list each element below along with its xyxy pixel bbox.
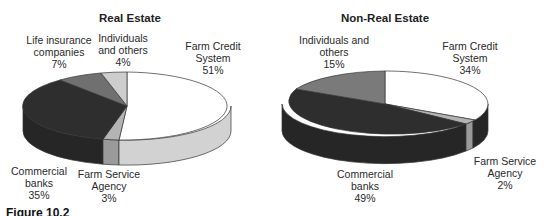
slice-side-farm-service-agency [466, 121, 473, 151]
label-percent: 35% [4, 189, 74, 201]
label-farm-service-agency: Farm Service Agency 3% [72, 168, 146, 204]
label-name: Farm Credit [435, 40, 505, 52]
label-name: System [435, 52, 505, 64]
label-farm-service-agency: Farm Service Agency 2% [468, 155, 542, 191]
label-individuals: Individuals and others 15% [292, 34, 376, 70]
label-name: Commercial [330, 168, 400, 180]
label-percent: 51% [178, 64, 248, 76]
chart-title-non-real-estate: Non-Real Estate [330, 12, 440, 24]
label-name: Farm Service [468, 155, 542, 167]
label-percent: 4% [91, 56, 155, 68]
label-name: Farm Credit [178, 40, 248, 52]
label-name: Agency [72, 180, 146, 192]
label-name: System [178, 52, 248, 64]
non-real-estate-pie [282, 71, 488, 164]
figure-caption: Figure 10.2 [6, 206, 69, 216]
slice-side-farm-service-agency [103, 139, 119, 165]
real-estate-pie [23, 72, 231, 165]
label-percent: 34% [435, 64, 505, 76]
label-name: Individuals [91, 32, 155, 44]
label-name: Agency [468, 167, 542, 179]
label-name: Commercial [4, 165, 74, 177]
label-percent: 3% [72, 192, 146, 204]
label-name: and others [91, 44, 155, 56]
label-farm-credit-system: Farm Credit System 51% [178, 40, 248, 76]
label-percent: 2% [468, 179, 542, 191]
label-name: others [292, 46, 376, 58]
label-farm-credit-system: Farm Credit System 34% [435, 40, 505, 76]
label-name: banks [330, 180, 400, 192]
label-percent: 49% [330, 192, 400, 204]
label-percent: 15% [292, 58, 376, 70]
label-individuals: Individuals and others 4% [91, 32, 155, 68]
label-name: Individuals and [292, 34, 376, 46]
label-commercial-banks: Commercial banks 35% [4, 165, 74, 201]
chart-title-real-estate: Real Estate [85, 12, 175, 24]
label-name: banks [4, 177, 74, 189]
label-commercial-banks: Commercial banks 49% [330, 168, 400, 204]
label-name: Farm Service [72, 168, 146, 180]
